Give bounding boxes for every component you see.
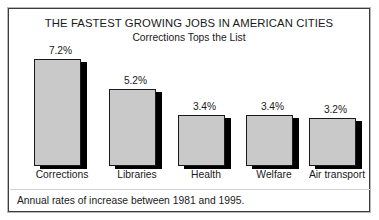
category-label: Health xyxy=(167,169,245,180)
bar-value-label: 5.2% xyxy=(109,75,162,86)
bar-group: 3.4% xyxy=(174,47,238,166)
bar-stack: 3.4% xyxy=(178,47,234,166)
bar-stack: 3.2% xyxy=(309,47,365,166)
bar-group: 7.2% xyxy=(30,47,94,166)
chart-frame: THE FASTEST GROWING JOBS IN AMERICAN CIT… xyxy=(8,8,370,212)
title-block: THE FASTEST GROWING JOBS IN AMERICAN CIT… xyxy=(9,16,369,44)
bar-value-label: 3.2% xyxy=(309,104,362,115)
bar-value-label: 3.4% xyxy=(178,101,231,112)
bar-value-label: 7.2% xyxy=(34,45,87,56)
chart-footnote: Annual rates of increase between 1981 an… xyxy=(17,195,244,206)
bar-stack: 5.2% xyxy=(109,47,165,166)
bar[interactable] xyxy=(178,115,225,166)
category-label: Libraries xyxy=(98,169,176,180)
category-label: Corrections xyxy=(23,169,101,180)
bar[interactable] xyxy=(246,115,293,166)
bar[interactable] xyxy=(109,89,156,166)
footnote-divider xyxy=(10,189,370,190)
bar[interactable] xyxy=(34,59,81,166)
chart-subtitle: Corrections Tops the List xyxy=(9,31,369,44)
plot-area: 7.2%5.2%3.4%3.4%3.2% xyxy=(9,47,371,166)
chart-title: THE FASTEST GROWING JOBS IN AMERICAN CIT… xyxy=(9,16,369,30)
bar-stack: 7.2% xyxy=(34,47,90,166)
bar-stack: 3.4% xyxy=(246,47,302,166)
bar-group: 3.2% xyxy=(305,47,369,166)
bar-group: 3.4% xyxy=(242,47,306,166)
bar[interactable] xyxy=(309,118,356,166)
category-label: Air transport xyxy=(298,169,376,180)
bar-value-label: 3.4% xyxy=(246,101,299,112)
category-axis: CorrectionsLibrariesHealthWelfareAir tra… xyxy=(9,169,371,187)
bar-group: 5.2% xyxy=(105,47,169,166)
